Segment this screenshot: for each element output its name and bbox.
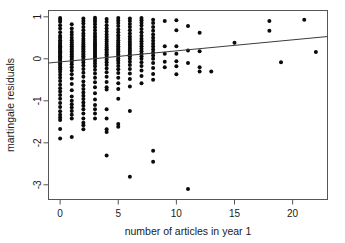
data-point [128,175,132,179]
data-point [58,27,62,31]
data-point [314,50,318,54]
data-point [81,107,85,111]
data-point [151,78,155,82]
data-point [116,67,120,71]
data-point [70,22,74,26]
data-point [116,97,120,101]
x-tick-label: 15 [229,208,241,219]
data-point [81,127,85,131]
data-point [116,81,120,85]
data-point [209,69,213,73]
data-point [70,116,74,120]
data-point [128,109,132,113]
data-point [93,103,97,107]
data-point [174,72,178,76]
data-point [70,77,74,81]
data-point [116,76,120,80]
data-point [81,67,85,71]
data-point [93,91,97,95]
data-point [174,59,178,63]
data-point [58,101,62,105]
data-point [186,187,190,191]
data-point [93,85,97,89]
data-point [93,98,97,102]
data-point [140,69,144,73]
data-point [58,137,62,141]
data-point [81,111,85,115]
data-point [81,79,85,83]
data-point [267,19,271,23]
data-point [105,116,109,120]
y-tick-label: 1 [32,14,43,20]
data-point [70,69,74,73]
data-point [128,85,132,89]
data-point [58,79,62,83]
data-point [93,68,97,72]
data-point [267,29,271,33]
data-point [116,71,120,75]
data-point [198,65,202,69]
data-point [70,72,74,76]
data-point [174,64,178,68]
data-point [151,66,155,70]
y-tick-label: -2 [32,138,43,147]
data-point [81,75,85,79]
x-axis-title: number of articles in year 1 [125,225,252,237]
data-point [81,71,85,75]
data-point [70,109,74,113]
data-point [93,111,97,115]
data-point [151,21,155,25]
data-point [58,97,62,101]
x-tick-label: 0 [57,208,63,219]
data-point [93,72,97,76]
data-point [186,24,190,28]
data-point [140,74,144,78]
data-point [302,18,306,22]
chart-figure: 05101520 10-1-2-3 number of articles in … [0,0,345,243]
data-point [58,127,62,131]
data-point [163,60,167,64]
data-point [105,75,109,79]
data-point [93,116,97,120]
data-point [105,153,109,157]
data-point [58,105,62,109]
data-point [151,149,155,153]
data-point [128,63,132,67]
data-point [140,64,144,68]
data-point [174,18,178,22]
data-point [105,80,109,84]
data-point [279,60,283,64]
data-point [186,61,190,65]
data-point [233,41,237,45]
data-point [151,61,155,65]
data-point [174,52,178,56]
data-point [198,69,202,73]
x-tick-label: 20 [287,208,299,219]
data-point [105,87,109,91]
data-point [105,130,109,134]
data-point [198,31,202,35]
data-point [93,76,97,80]
data-point [151,72,155,76]
data-point [116,87,120,91]
data-point [128,72,132,76]
data-point [105,107,109,111]
data-point [105,66,109,70]
y-axis-title: martingale residuals [4,58,16,152]
data-point [151,160,155,164]
data-point [174,28,178,32]
y-tick-label: -3 [32,180,43,189]
data-point [174,44,178,48]
data-point [128,67,132,71]
data-point [93,107,97,111]
data-point [128,77,132,81]
y-tick-label: -1 [32,96,43,105]
data-point [81,123,85,127]
data-point [58,93,62,97]
data-point [70,135,74,139]
data-point [163,19,167,23]
data-point [116,125,120,129]
data-point [140,60,144,64]
data-point [105,70,109,74]
data-point [70,88,74,92]
